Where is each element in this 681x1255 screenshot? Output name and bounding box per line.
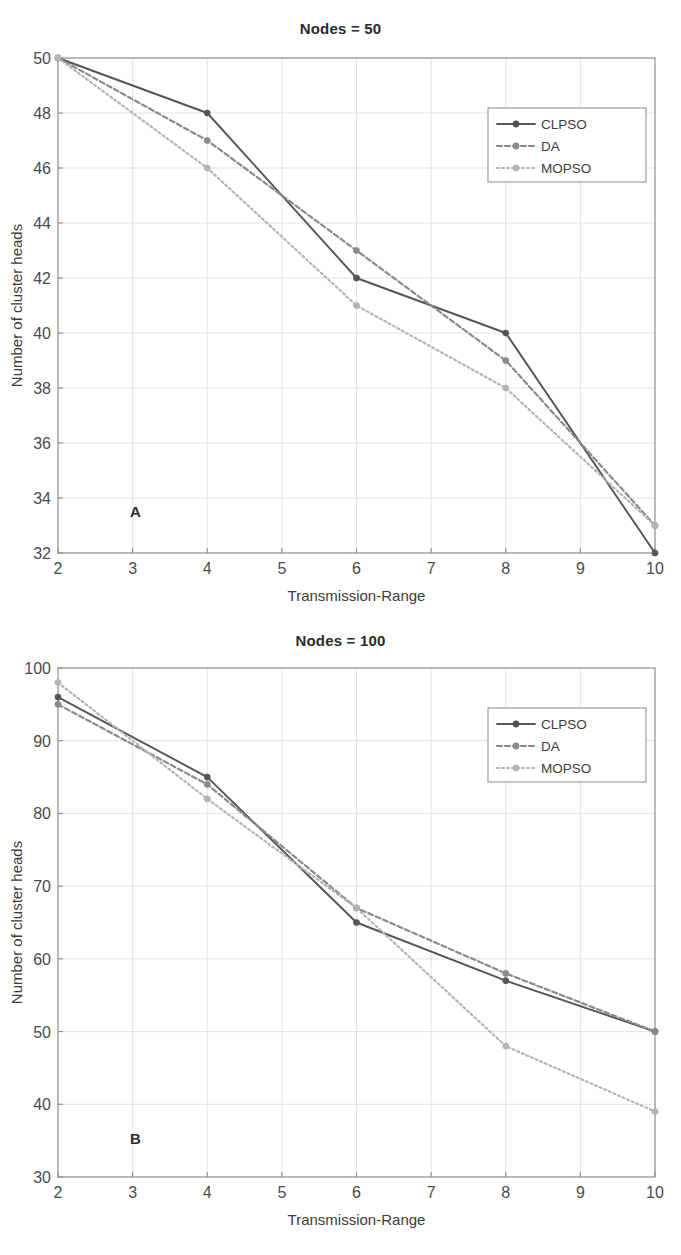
x-axis-title: Transmission-Range bbox=[288, 1211, 426, 1228]
y-tick-label: 50 bbox=[33, 50, 51, 67]
legend-marker-da bbox=[513, 743, 520, 750]
panel-a: Nodes = 50 23456789103234363840424446485… bbox=[0, 18, 681, 623]
chart-title-a: Nodes = 50 bbox=[0, 18, 681, 40]
plot-area-b: 234567891030405060708090100Transmission-… bbox=[0, 652, 681, 1247]
x-tick-label: 3 bbox=[128, 1184, 137, 1201]
legend-label-clpso: CLPSO bbox=[541, 717, 587, 732]
data-point-da bbox=[503, 970, 509, 976]
legend-label-clpso: CLPSO bbox=[541, 117, 587, 132]
data-point-clpso bbox=[652, 550, 658, 556]
data-point-mopso bbox=[55, 55, 61, 61]
legend-marker-da bbox=[513, 143, 520, 150]
data-point-mopso bbox=[503, 1043, 509, 1049]
data-point-da bbox=[353, 247, 359, 253]
y-tick-label: 40 bbox=[33, 1096, 51, 1113]
data-point-da bbox=[503, 357, 509, 363]
x-tick-label: 10 bbox=[646, 560, 664, 577]
x-tick-label: 2 bbox=[54, 1184, 63, 1201]
data-point-mopso bbox=[204, 165, 210, 171]
x-tick-label: 7 bbox=[427, 1184, 436, 1201]
data-point-clpso bbox=[353, 919, 359, 925]
data-point-da bbox=[204, 781, 210, 787]
y-tick-label: 32 bbox=[33, 545, 51, 562]
panel-letter: A bbox=[130, 503, 141, 520]
y-tick-label: 34 bbox=[33, 490, 51, 507]
chart-svg-b: 234567891030405060708090100Transmission-… bbox=[0, 652, 681, 1247]
x-tick-label: 8 bbox=[501, 560, 510, 577]
x-tick-label: 4 bbox=[203, 560, 212, 577]
chart-svg-a: 234567891032343638404244464850Transmissi… bbox=[0, 40, 681, 620]
x-tick-label: 9 bbox=[576, 1184, 585, 1201]
y-tick-label: 70 bbox=[33, 878, 51, 895]
legend-label-mopso: MOPSO bbox=[541, 761, 591, 776]
legend-label-mopso: MOPSO bbox=[541, 161, 591, 176]
y-tick-label: 48 bbox=[33, 105, 51, 122]
plot-area-a: 234567891032343638404244464850Transmissi… bbox=[0, 40, 681, 620]
y-tick-label: 36 bbox=[33, 435, 51, 452]
x-tick-label: 5 bbox=[277, 560, 286, 577]
panel-letter: B bbox=[130, 1130, 141, 1147]
y-tick-label: 100 bbox=[24, 660, 51, 677]
x-tick-label: 8 bbox=[501, 1184, 510, 1201]
data-point-mopso bbox=[353, 905, 359, 911]
legend-label-da: DA bbox=[541, 139, 560, 154]
x-axis-title: Transmission-Range bbox=[288, 587, 426, 604]
x-tick-label: 10 bbox=[646, 1184, 664, 1201]
y-tick-label: 42 bbox=[33, 270, 51, 287]
y-tick-label: 90 bbox=[33, 733, 51, 750]
x-tick-label: 6 bbox=[352, 1184, 361, 1201]
panel-b: Nodes = 100 234567891030405060708090100T… bbox=[0, 630, 681, 1250]
y-tick-label: 60 bbox=[33, 951, 51, 968]
legend-label-da: DA bbox=[541, 739, 560, 754]
y-tick-label: 50 bbox=[33, 1024, 51, 1041]
data-point-clpso bbox=[204, 774, 210, 780]
x-tick-label: 9 bbox=[576, 560, 585, 577]
x-tick-label: 2 bbox=[54, 560, 63, 577]
data-point-clpso bbox=[55, 694, 61, 700]
data-point-da bbox=[55, 701, 61, 707]
y-tick-label: 40 bbox=[33, 325, 51, 342]
data-point-mopso bbox=[204, 796, 210, 802]
y-tick-label: 44 bbox=[33, 215, 51, 232]
x-tick-label: 7 bbox=[427, 560, 436, 577]
data-point-mopso bbox=[503, 385, 509, 391]
data-point-mopso bbox=[353, 302, 359, 308]
x-tick-label: 4 bbox=[203, 1184, 212, 1201]
data-point-da bbox=[652, 1028, 658, 1034]
legend-marker-clpso bbox=[513, 121, 520, 128]
data-point-clpso bbox=[503, 978, 509, 984]
x-tick-label: 3 bbox=[128, 560, 137, 577]
legend-marker-mopso bbox=[513, 165, 520, 172]
y-axis-title: Number of cluster heads bbox=[8, 224, 25, 387]
y-tick-label: 46 bbox=[33, 160, 51, 177]
data-point-da bbox=[204, 137, 210, 143]
y-axis-title: Number of cluster heads bbox=[8, 841, 25, 1004]
x-tick-label: 6 bbox=[352, 560, 361, 577]
legend-marker-clpso bbox=[513, 721, 520, 728]
y-tick-label: 38 bbox=[33, 380, 51, 397]
data-point-mopso bbox=[652, 522, 658, 528]
y-tick-label: 30 bbox=[33, 1169, 51, 1186]
data-point-clpso bbox=[503, 330, 509, 336]
chart-title-b: Nodes = 100 bbox=[0, 630, 681, 652]
x-tick-label: 5 bbox=[277, 1184, 286, 1201]
data-point-clpso bbox=[204, 110, 210, 116]
data-point-mopso bbox=[652, 1108, 658, 1114]
legend-marker-mopso bbox=[513, 765, 520, 772]
data-point-mopso bbox=[55, 679, 61, 685]
y-tick-label: 80 bbox=[33, 805, 51, 822]
data-point-clpso bbox=[353, 275, 359, 281]
